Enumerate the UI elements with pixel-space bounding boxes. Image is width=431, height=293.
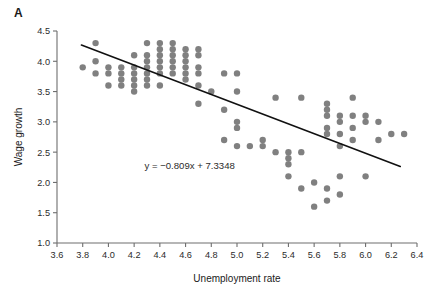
data-point (337, 173, 343, 179)
data-point (92, 58, 98, 64)
data-point (298, 185, 304, 191)
data-point (234, 119, 240, 125)
data-point (118, 70, 124, 76)
data-point (157, 46, 163, 52)
regression-equation-label: y = −0.809x + 7.3348 (144, 160, 234, 171)
y-tick-label: 2.5 (37, 148, 50, 158)
data-points (80, 40, 408, 210)
data-point (182, 64, 188, 70)
data-point (337, 131, 343, 137)
data-point (298, 94, 304, 100)
data-point (144, 58, 150, 64)
data-point (324, 131, 330, 137)
scatter-plot: 1.01.52.02.53.03.54.04.5 3.63.84.04.24.4… (0, 0, 431, 293)
x-tick-label: 6.0 (359, 250, 372, 260)
data-point (131, 82, 137, 88)
data-point (298, 149, 304, 155)
data-point (92, 70, 98, 76)
data-point (234, 143, 240, 149)
data-point (311, 179, 317, 185)
x-tick-label: 4.8 (205, 250, 218, 260)
data-point (272, 94, 278, 100)
data-point (92, 40, 98, 46)
data-point (337, 113, 343, 119)
data-point (375, 137, 381, 143)
data-point (311, 203, 317, 209)
data-point (195, 70, 201, 76)
data-point (195, 64, 201, 70)
data-point (324, 185, 330, 191)
data-point (195, 46, 201, 52)
y-axis-ticks: 1.01.52.02.53.03.54.04.5 (37, 26, 57, 248)
figure-panel: A 1.01.52.02.53.03.54.04.5 3.63.84.04.24… (0, 0, 431, 293)
data-point (170, 70, 176, 76)
data-point (260, 143, 266, 149)
x-tick-label: 4.0 (102, 250, 115, 260)
data-point (362, 119, 368, 125)
y-tick-label: 2.0 (37, 178, 50, 188)
y-axis-title: Wage growth (13, 108, 24, 167)
data-point (350, 137, 356, 143)
data-point (234, 125, 240, 131)
data-point (272, 149, 278, 155)
data-point (221, 107, 227, 113)
x-tick-label: 4.4 (153, 250, 166, 260)
x-tick-label: 3.6 (51, 250, 64, 260)
data-point (182, 58, 188, 64)
x-tick-label: 4.2 (128, 250, 141, 260)
y-axis: 1.01.52.02.53.03.54.04.5 (37, 26, 57, 248)
data-point (170, 52, 176, 58)
data-point (170, 40, 176, 46)
data-point (80, 64, 86, 70)
y-tick-label: 4.0 (37, 57, 50, 67)
data-point (260, 137, 266, 143)
data-point (324, 107, 330, 113)
data-point (324, 125, 330, 131)
data-point (221, 70, 227, 76)
data-point (170, 46, 176, 52)
x-tick-label: 5.0 (231, 250, 244, 260)
y-tick-label: 3.0 (37, 117, 50, 127)
data-point (285, 155, 291, 161)
data-point (337, 119, 343, 125)
data-point (105, 64, 111, 70)
x-tick-label: 5.4 (282, 250, 295, 260)
data-point (285, 161, 291, 167)
data-point (350, 94, 356, 100)
data-point (324, 197, 330, 203)
data-point (131, 76, 137, 82)
data-point (195, 100, 201, 106)
data-point (131, 88, 137, 94)
data-point (195, 52, 201, 58)
x-tick-label: 5.6 (308, 250, 321, 260)
data-point (182, 52, 188, 58)
data-point (324, 100, 330, 106)
data-point (401, 131, 407, 137)
data-point (182, 46, 188, 52)
data-point (157, 64, 163, 70)
x-tick-label: 3.8 (76, 250, 89, 260)
x-tick-label: 6.4 (411, 250, 424, 260)
data-point (131, 70, 137, 76)
data-point (144, 40, 150, 46)
data-point (350, 125, 356, 131)
data-point (195, 82, 201, 88)
data-point (221, 137, 227, 143)
x-tick-label: 6.2 (385, 250, 398, 260)
data-point (157, 82, 163, 88)
data-point (182, 70, 188, 76)
data-point (350, 113, 356, 119)
data-point (105, 82, 111, 88)
data-point (118, 64, 124, 70)
data-point (247, 143, 253, 149)
data-point (234, 70, 240, 76)
x-tick-label: 4.6 (179, 250, 192, 260)
data-point (362, 173, 368, 179)
data-point (144, 82, 150, 88)
regression-line (81, 45, 400, 167)
data-point (118, 82, 124, 88)
y-tick-label: 1.5 (37, 208, 50, 218)
data-point (234, 88, 240, 94)
y-tick-label: 1.0 (37, 238, 50, 248)
x-tick-label: 5.8 (333, 250, 346, 260)
